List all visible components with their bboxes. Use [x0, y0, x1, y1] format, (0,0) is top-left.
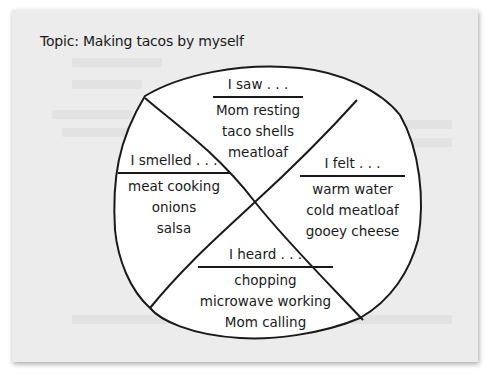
list-item: chopping: [198, 270, 333, 291]
section-heard: I heard . . . chopping microwave working…: [198, 244, 333, 333]
section-felt: I felt . . . warm water cold meatloaf go…: [300, 153, 405, 242]
section-heading: I saw . . .: [213, 74, 303, 98]
list-item: meat cooking: [118, 176, 230, 197]
section-heading: I smelled . . .: [118, 150, 230, 174]
list-item: onions: [118, 197, 230, 218]
list-item: Mom calling: [198, 312, 333, 333]
section-heading: I heard . . .: [198, 244, 333, 268]
list-item: cold meatloaf: [300, 200, 405, 221]
section-smelled: I smelled . . . meat cooking onions sals…: [118, 150, 230, 239]
list-item: microwave working: [198, 291, 333, 312]
section-heading: I felt . . .: [300, 153, 405, 177]
list-item: taco shells: [213, 121, 303, 142]
list-item: Mom resting: [213, 100, 303, 121]
list-item: gooey cheese: [300, 221, 405, 242]
list-item: warm water: [300, 179, 405, 200]
list-item: salsa: [118, 218, 230, 239]
